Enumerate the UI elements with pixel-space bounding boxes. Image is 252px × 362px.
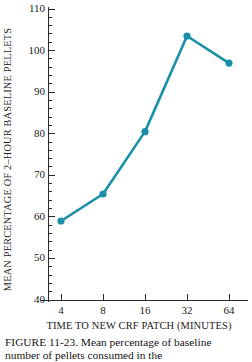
x-axis-title: TIME TO NEW CRF PATCH (MINUTES) xyxy=(26,320,252,331)
figure-caption: FIGURE 11-23. Mean percentage of baselin… xyxy=(5,336,249,362)
series-markers xyxy=(57,32,232,224)
data-point-marker xyxy=(225,59,232,66)
caption-line: number of pellets consumed in the xyxy=(5,349,249,362)
data-point-marker xyxy=(57,217,64,224)
caption-line: FIGURE 11-23. Mean percentage of baselin… xyxy=(5,336,249,349)
data-point-marker xyxy=(99,190,106,197)
data-point-marker xyxy=(141,128,148,135)
data-point-marker xyxy=(183,32,190,39)
